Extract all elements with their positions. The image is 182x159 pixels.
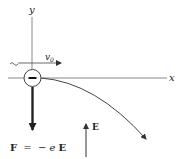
velocity-label: v0 bbox=[45, 52, 54, 63]
y-axis-label: y bbox=[28, 4, 35, 15]
force-label: F = − e E bbox=[10, 142, 67, 153]
electron-deflection-diagram: y x v0 F = − e E E bbox=[0, 0, 182, 159]
field-label: E bbox=[92, 122, 99, 132]
x-axis-label: x bbox=[169, 72, 175, 83]
incoming-wave bbox=[10, 63, 18, 66]
